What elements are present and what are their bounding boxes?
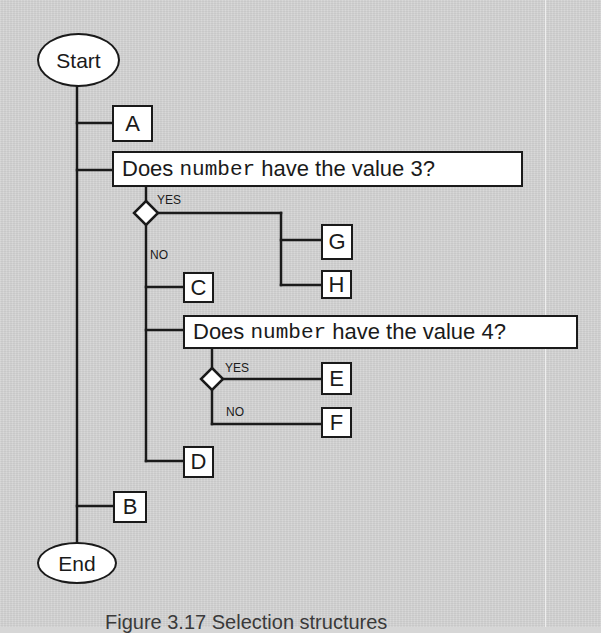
start-label: Start xyxy=(56,50,100,71)
decision-1-question: Does number have the value 3? xyxy=(112,151,523,187)
step-d-label: D xyxy=(191,451,207,473)
decision-1-prefix: Does xyxy=(122,158,179,180)
step-f-label: F xyxy=(330,412,343,434)
step-e-label: E xyxy=(329,368,344,390)
step-g-label: G xyxy=(328,231,345,253)
decision-1-variable: number xyxy=(179,159,255,180)
end-label: End xyxy=(58,553,95,574)
decision-2-suffix: have the value 4? xyxy=(326,321,506,343)
decision-2-variable: number xyxy=(250,322,326,343)
decision-1-suffix: have the value 3? xyxy=(255,158,435,180)
step-h-label: H xyxy=(329,274,345,296)
step-c-label: C xyxy=(191,277,207,299)
step-a: A xyxy=(112,105,153,142)
decision-2-question: Does number have the value 4? xyxy=(183,315,578,349)
step-f: F xyxy=(321,407,352,438)
decision-1-diamond-icon xyxy=(134,201,158,225)
start-terminal: Start xyxy=(37,33,120,87)
step-h: H xyxy=(321,270,352,299)
decision-2-prefix: Does xyxy=(193,321,250,343)
step-d: D xyxy=(183,446,214,478)
decision-2-no-label: NO xyxy=(226,406,244,418)
decision-2-yes-label: YES xyxy=(225,362,249,374)
decision-1-no-label: NO xyxy=(150,249,168,261)
figure-caption: Figure 3.17 Selection structures xyxy=(105,612,387,632)
step-c: C xyxy=(183,272,214,303)
decision-1-yes-label: YES xyxy=(157,194,181,206)
step-e: E xyxy=(321,362,352,395)
step-g: G xyxy=(321,224,353,260)
decision-2-diamond-icon xyxy=(201,368,223,390)
step-b-label: B xyxy=(123,496,138,518)
step-a-label: A xyxy=(125,113,140,135)
end-terminal: End xyxy=(37,542,117,584)
step-b: B xyxy=(113,491,147,523)
